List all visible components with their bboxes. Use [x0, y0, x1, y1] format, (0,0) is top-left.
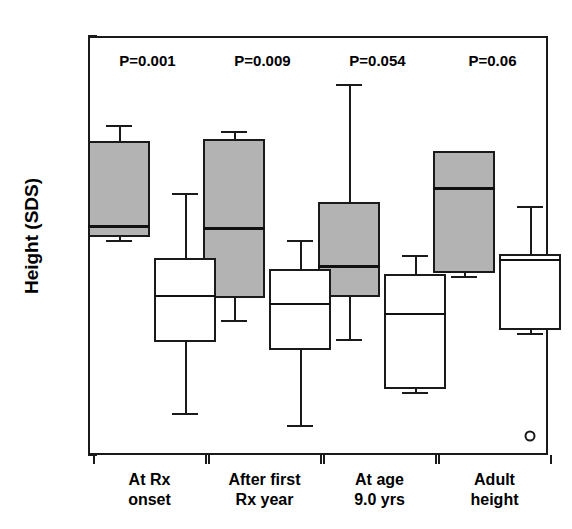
whisker-upper	[185, 193, 187, 258]
x-tick-mark	[550, 455, 552, 464]
x-axis-category-line: At age	[320, 470, 440, 490]
x-tick-mark	[323, 455, 325, 464]
x-axis-category-line: Adult	[435, 470, 555, 490]
box	[88, 141, 150, 237]
p-value-label: P=0.001	[119, 52, 175, 69]
whisker-cap-lower	[402, 392, 428, 394]
whisker-upper	[119, 125, 121, 142]
whisker-cap-lower	[336, 339, 362, 341]
whisker-upper	[530, 206, 532, 253]
x-axis-category-line: Rx year	[205, 490, 325, 510]
whisker-cap-upper	[402, 255, 428, 257]
x-axis-category-label: After firstRx year	[205, 470, 325, 510]
median-line	[203, 227, 265, 230]
x-tick-mark	[208, 455, 210, 464]
whisker-cap-lower	[172, 413, 198, 415]
p-value-label: P=0.06	[469, 52, 517, 69]
whisker-lower	[234, 298, 236, 320]
median-line	[384, 313, 446, 315]
x-axis-category-label: At Rxonset	[90, 470, 210, 510]
x-tick-mark	[320, 455, 322, 464]
whisker-upper	[415, 255, 417, 275]
whisker-lower	[300, 350, 302, 425]
whisker-cap-upper	[106, 125, 132, 127]
x-tick-mark	[438, 455, 440, 464]
x-axis-category-label: At age9.0 yrs	[320, 470, 440, 510]
whisker-cap-lower	[517, 333, 543, 335]
median-line	[88, 225, 150, 228]
whisker-cap-upper	[172, 193, 198, 195]
box	[269, 269, 331, 350]
whisker-cap-upper	[287, 240, 313, 242]
x-tick-mark	[205, 455, 207, 464]
x-tick-mark	[93, 455, 95, 464]
whisker-upper	[349, 84, 351, 202]
x-axis-category-line: height	[435, 490, 555, 510]
whisker-cap-upper	[221, 131, 247, 133]
x-axis-category-line: At Rx	[90, 470, 210, 490]
whisker-cap-upper	[336, 84, 362, 86]
median-line	[499, 259, 561, 261]
whisker-lower	[349, 297, 351, 339]
box	[499, 254, 561, 330]
median-line	[318, 265, 380, 268]
outlier-point	[524, 431, 535, 442]
x-axis-category-line: After first	[205, 470, 325, 490]
whisker-cap-lower	[106, 240, 132, 242]
whisker-lower	[185, 342, 187, 413]
whisker-upper	[300, 240, 302, 269]
whisker-cap-lower	[451, 276, 477, 278]
box	[384, 274, 446, 389]
p-value-label: P=0.009	[234, 52, 290, 69]
boxplot-figure: Height (SDS) 210-1-2-3-4 At RxonsetAfter…	[0, 0, 572, 529]
p-value-label: P=0.054	[349, 52, 405, 69]
x-axis-category-line: onset	[90, 490, 210, 510]
whisker-cap-upper	[517, 206, 543, 208]
box	[433, 151, 495, 274]
y-axis-title: Height (SDS)	[21, 126, 43, 346]
median-line	[433, 187, 495, 190]
x-axis-category-label: Adultheight	[435, 470, 555, 510]
median-line	[269, 303, 331, 305]
x-tick-mark	[435, 455, 437, 464]
whisker-cap-lower	[287, 425, 313, 427]
x-axis-category-line: 9.0 yrs	[320, 490, 440, 510]
whisker-cap-lower	[221, 320, 247, 322]
median-line	[154, 295, 216, 297]
box	[154, 258, 216, 342]
